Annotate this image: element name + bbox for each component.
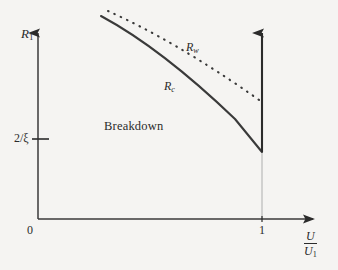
region-label-breakdown: Breakdown	[104, 120, 163, 133]
y-axis-label-base: R	[21, 26, 29, 41]
y-tick-label-2-over-xi: 2/ξ	[14, 132, 29, 144]
x-axis-label-numerator: U	[304, 230, 317, 244]
x-axis-label-denominator-base: U	[304, 244, 313, 258]
x-axis-label: U U1	[304, 230, 317, 259]
figure-container: R1 2/ξ 0 1 U U1 Rw Rc Breakdown	[0, 0, 338, 270]
y-axis-label-subscript: 1	[29, 32, 33, 42]
curve-label-r-w-subscript: w	[193, 46, 198, 55]
plot-canvas	[0, 0, 338, 270]
curve-label-r-c: Rc	[164, 80, 175, 94]
x-axis-label-denominator: U1	[304, 244, 317, 259]
curve-label-r-w: Rw	[186, 41, 199, 55]
y-axis-label: R1	[21, 27, 33, 42]
curve-label-r-c-subscript: c	[171, 85, 175, 94]
curve-r-w	[108, 11, 262, 102]
origin-label: 0	[27, 224, 33, 236]
x-tick-label-1: 1	[259, 224, 265, 236]
x-axis-label-denominator-subscript: 1	[313, 250, 317, 259]
